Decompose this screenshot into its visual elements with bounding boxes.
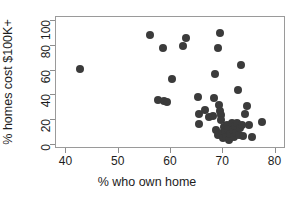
x-axis-tick-label: 50 — [111, 154, 124, 168]
x-axis-title: % who own home — [0, 175, 294, 189]
plot-panel — [55, 16, 285, 148]
data-point — [76, 65, 84, 73]
y-axis-title: % homes cost $100K+ — [1, 19, 15, 144]
data-point — [234, 86, 242, 94]
data-point — [243, 102, 251, 110]
data-point — [168, 75, 176, 83]
y-axis-tick-label: 100 — [39, 20, 53, 40]
scatter-plot-figure: 4050607080 020406080100 % who own home %… — [0, 0, 294, 202]
y-axis-tick-label: 80 — [39, 45, 53, 58]
data-point — [163, 98, 171, 106]
data-point — [209, 112, 217, 120]
data-point — [146, 31, 154, 39]
y-axis-tick-label: 40 — [39, 94, 53, 107]
data-point — [216, 29, 224, 37]
x-axis-tick — [118, 148, 119, 153]
x-axis-tick — [222, 148, 223, 153]
data-point — [211, 70, 219, 78]
data-point — [194, 93, 202, 101]
x-axis-tick-label: 40 — [59, 154, 72, 168]
x-axis-tick-label: 70 — [216, 154, 229, 168]
y-axis-tick-label: 20 — [39, 119, 53, 132]
data-point — [258, 118, 266, 126]
data-point — [195, 120, 203, 128]
data-point — [248, 133, 256, 141]
data-point — [239, 132, 247, 140]
x-axis-tick — [170, 148, 171, 153]
x-axis-tick — [275, 148, 276, 153]
data-point — [159, 44, 167, 52]
x-axis-tick — [65, 148, 66, 153]
x-axis-tick-label: 80 — [268, 154, 281, 168]
data-point — [241, 110, 249, 118]
data-point — [182, 34, 190, 42]
data-point — [214, 44, 222, 52]
data-point — [237, 61, 245, 69]
y-axis-tick-label: 60 — [39, 70, 53, 83]
data-point — [245, 121, 253, 129]
y-axis-tick-label: 0 — [39, 144, 53, 151]
data-point — [179, 42, 187, 50]
x-axis-tick-label: 60 — [163, 154, 176, 168]
